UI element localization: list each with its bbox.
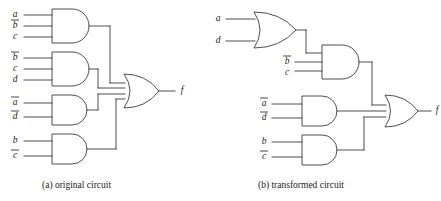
input-label: b [285,56,290,66]
gate-b-and2 [272,96,386,126]
gate-a-and3-input-labels: a d [11,97,19,121]
input-label: c [13,63,18,73]
input-label: c [262,151,267,161]
circuit-canvas: a b c b c d [0,0,441,201]
circuit-a: a b c b c d [11,9,185,164]
input-label: a [216,13,221,23]
input-label: b [262,136,267,146]
gate-b-and2-input-labels: a d [260,98,268,122]
input-label: d [13,111,18,121]
input-label: b [13,20,18,30]
logic-circuit-figure: a b c b c d [0,0,441,201]
caption-original-circuit: (a) original circuit [42,180,111,190]
circuit-b: a d b c a d [216,12,440,165]
gate-b-and3-input-labels: b c [260,136,268,161]
gate-a-and2-input-labels: b c d [11,52,19,84]
gate-a-and1-input-labels: a b c [11,9,19,41]
gate-b-or2 [385,95,431,127]
input-label: c [285,67,290,77]
gate-b-or1-input-labels: a d [216,13,221,45]
input-label: b [13,52,18,62]
input-label: d [262,112,267,122]
gate-a-and3 [24,94,125,125]
input-label: a [13,97,18,107]
caption-transformed-circuit: (b) transformed circuit [258,180,344,190]
input-label: d [216,35,221,45]
output-label-f: f [181,85,185,95]
input-label: a [13,9,18,19]
gate-b-or1 [226,12,322,53]
output-label-f: f [436,105,440,115]
gate-a-and4-input-labels: b c [11,135,19,160]
input-label: d [13,74,18,84]
input-label: c [13,150,18,160]
input-label: c [13,31,18,41]
input-label: a [262,98,267,108]
gate-b-and1-input-labels: b c [283,56,291,77]
gate-a-or1 [124,74,175,108]
input-label: b [13,135,18,145]
